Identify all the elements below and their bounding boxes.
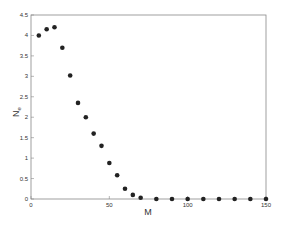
data-point [68,73,73,78]
data-point [131,193,136,198]
svg-text:2.5: 2.5 [20,94,29,100]
data-point [264,197,269,202]
data-point [37,33,42,38]
data-point [44,27,49,32]
data-point [248,197,253,202]
data-point [232,197,237,202]
data-point [170,197,175,202]
svg-text:3: 3 [25,73,29,79]
svg-text:1.5: 1.5 [20,135,29,141]
svg-text:0.5: 0.5 [20,176,29,182]
data-point [91,131,96,136]
svg-text:2: 2 [25,114,29,120]
y-axis-label: Ne [11,106,22,117]
data-point [201,197,206,202]
scatter-chart: 00.511.522.533.544.5 050100150 M Ne [0,0,285,228]
svg-text:4: 4 [25,32,29,38]
svg-text:4.5: 4.5 [20,12,29,18]
svg-text:150: 150 [261,202,272,208]
data-point [185,197,190,202]
svg-text:Ne: Ne [11,106,22,117]
plot-area [31,15,266,199]
svg-text:0: 0 [29,202,33,208]
data-point [115,173,120,178]
data-point [123,186,128,191]
data-point [84,115,89,120]
data-point [217,197,222,202]
data-point [76,101,81,106]
data-point [99,144,104,149]
svg-text:3.5: 3.5 [20,53,29,59]
data-point [154,197,159,202]
data-point [52,25,57,30]
svg-text:0: 0 [25,196,29,202]
svg-text:50: 50 [106,202,113,208]
svg-text:1: 1 [25,155,29,161]
data-point [138,195,143,200]
svg-text:100: 100 [183,202,194,208]
data-point [107,161,112,166]
data-point [60,45,65,50]
x-axis-label: M [144,207,152,217]
